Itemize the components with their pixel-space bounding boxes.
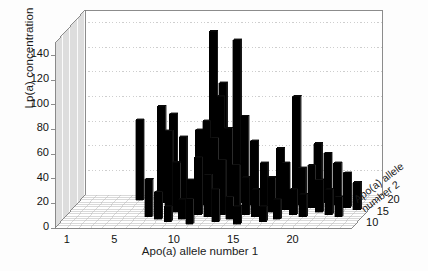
bar-front-face [186,199,193,224]
bar-front-face [136,120,143,200]
bar-front-face [145,180,152,217]
z-tick-label: 10 [358,216,378,228]
bar-top-face [203,120,212,121]
bar-top-face [241,115,250,116]
x-tick-label: 5 [100,233,128,245]
bar-top-face [289,188,298,189]
bar-top-face [298,167,307,168]
bar-front-face [154,192,161,219]
bar [194,156,203,214]
bar-front-face [335,197,342,217]
bar-top-face [276,147,285,148]
bar-top-face [308,164,317,165]
bar [186,198,195,224]
bar [212,188,221,222]
bar-front-face [204,175,211,217]
bar-front-face [226,197,233,219]
bar-front-face [282,163,289,210]
bar-top-face [219,82,228,83]
bar-top-face [282,162,291,163]
three-d-bar-plot [0,0,428,271]
bar [273,198,282,219]
bar-top-face [325,188,334,189]
bar [335,196,344,217]
bar [154,191,163,220]
bar-top-face [273,198,282,199]
x-axis-title: Apo(a) allele number 1 [110,245,290,257]
bar-top-face [179,136,188,137]
bar-top-face [187,179,196,180]
y-tick-label: 20 [17,195,49,207]
bar-top-face [250,140,259,141]
y-tick-label: 80 [17,121,49,133]
bar [289,188,298,214]
bar-top-face [157,105,166,106]
bar-top-face [268,176,277,177]
bar-top-face [314,142,323,143]
bar-top-face [164,205,173,206]
bar [136,119,145,201]
bar-top-face [333,162,342,163]
bar-top-face [232,164,241,165]
bar [242,176,251,214]
bar [157,105,166,203]
back-left-wall [55,10,85,228]
bar-top-face [226,196,235,197]
bar-top-face [169,113,178,114]
z-tick-label: 15 [369,205,389,217]
bar-top-face [315,179,324,180]
chart-figure: Lp(a) concentration Apo(a) allele number… [0,0,428,271]
bar-top-face [218,159,227,160]
bar-top-face [335,196,344,197]
bar [145,178,154,216]
x-tick-label: 15 [219,233,247,245]
bar-front-face [343,173,350,208]
bar [164,205,173,221]
bar-top-face [209,30,218,31]
bar-front-face [289,190,296,215]
bar-top-face [136,119,145,120]
bar-top-face [324,152,333,153]
bar-top-face [242,176,251,177]
bar-top-face [299,193,308,194]
bar-top-face [224,127,233,128]
bar-top-face [145,178,154,179]
bar [178,198,187,219]
bar-top-face [204,174,213,175]
x-tick-label: 1 [53,233,81,245]
bar-front-face [164,207,171,222]
bar-front-face [233,207,240,224]
bar [233,205,242,224]
bar-front-face [315,180,322,212]
bar-top-face [210,137,219,138]
bar-top-face [194,156,203,157]
bar-top-face [259,205,268,206]
bar-front-face [325,190,332,215]
bar-front-face [157,107,164,203]
bar-front-face [251,190,258,217]
bar-top-face [217,95,226,96]
bar [299,193,308,217]
bar-front-face [259,207,266,222]
bar [315,179,324,213]
bar-top-face [173,161,182,162]
bar-top-face [154,191,163,192]
x-tick-label: 10 [160,233,188,245]
bar-top-face [195,129,204,130]
y-tick-label: 60 [17,146,49,158]
y-tick-label: 100 [17,97,49,109]
bar-front-face [242,178,249,215]
x-tick-label: 20 [279,233,307,245]
bar [325,188,334,214]
bar [204,174,213,217]
bar-top-face [343,172,352,173]
bar-top-face [292,95,301,96]
z-tick-label: 20 [380,193,400,205]
y-tick-label: 40 [17,171,49,183]
bar-front-face [165,131,172,207]
bar-front-face [308,166,315,208]
bar [260,162,269,208]
bar [165,130,174,208]
bar [343,172,352,208]
bar-top-face [251,188,260,189]
